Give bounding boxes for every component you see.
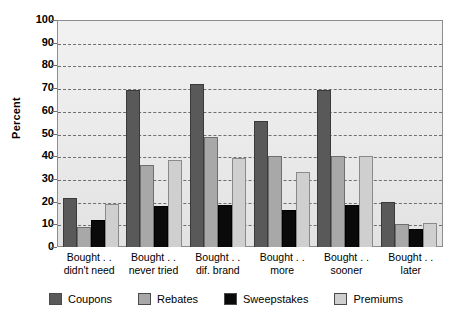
bar-group — [126, 20, 182, 247]
bar-premiums-4 — [296, 172, 310, 247]
bar-rebates-3 — [204, 137, 218, 247]
bar-sweepstakes-5 — [345, 205, 359, 247]
x-axis-label-6: Bought . .later — [379, 251, 443, 277]
y-axis-tick-10: 10 — [0, 217, 54, 229]
legend-label-rebates: Rebates — [157, 293, 198, 305]
bar-coupons-6 — [381, 202, 395, 247]
legend-swatch-coupons — [49, 293, 62, 305]
bar-chart: Percent 0102030405060708090100 Bought . … — [0, 0, 452, 320]
bar-sweepstakes-3 — [218, 205, 232, 247]
y-axis-tick-0: 0 — [0, 240, 54, 252]
y-axis-tick-60: 60 — [0, 104, 54, 116]
bar-premiums-1 — [105, 204, 119, 247]
bar-rebates-1 — [77, 227, 91, 247]
legend-item-sweepstakes[interactable]: Sweepstakes — [224, 293, 308, 305]
legend-label-sweepstakes: Sweepstakes — [243, 293, 308, 305]
y-axis-tick-50: 50 — [0, 127, 54, 139]
y-axis-tick-80: 80 — [0, 58, 54, 70]
legend-label-premiums: Premiums — [353, 293, 403, 305]
legend-item-rebates[interactable]: Rebates — [138, 293, 198, 305]
legend-item-coupons[interactable]: Coupons — [49, 293, 112, 305]
bar-sweepstakes-1 — [91, 220, 105, 247]
bar-coupons-2 — [126, 90, 140, 247]
bar-sweepstakes-2 — [154, 206, 168, 247]
bar-group — [63, 20, 119, 247]
bar-rebates-2 — [140, 165, 154, 247]
y-axis-tick-20: 20 — [0, 195, 54, 207]
x-axis-tick-labels: Bought . .didn't needBought . .never tri… — [57, 251, 443, 277]
bar-coupons-3 — [190, 84, 204, 247]
bar-premiums-2 — [168, 160, 182, 247]
legend-swatch-premiums — [334, 293, 347, 305]
x-axis-label-4: Bought . .more — [250, 251, 314, 277]
bar-premiums-5 — [359, 156, 373, 247]
bar-sweepstakes-4 — [282, 210, 296, 247]
bar-sweepstakes-6 — [409, 229, 423, 247]
y-axis-tickmark — [51, 247, 57, 248]
bar-rebates-5 — [331, 156, 345, 247]
bar-group — [254, 20, 310, 247]
legend: CouponsRebatesSweepstakesPremiums — [0, 293, 452, 305]
bar-coupons-5 — [317, 90, 331, 247]
legend-swatch-rebates — [138, 293, 151, 305]
bar-premiums-3 — [232, 158, 246, 247]
bar-coupons-4 — [254, 121, 268, 247]
bar-groups — [57, 20, 443, 247]
legend-swatch-sweepstakes — [224, 293, 237, 305]
y-axis-tick-40: 40 — [0, 149, 54, 161]
x-axis-label-2: Bought . .never tried — [121, 251, 185, 277]
bar-group — [317, 20, 373, 247]
x-axis-label-1: Bought . .didn't need — [57, 251, 121, 277]
legend-item-premiums[interactable]: Premiums — [334, 293, 403, 305]
x-axis-label-5: Bought . .sooner — [314, 251, 378, 277]
y-axis-tick-100: 100 — [0, 13, 54, 25]
y-axis-tick-30: 30 — [0, 172, 54, 184]
legend-label-coupons: Coupons — [68, 293, 112, 305]
bar-group — [190, 20, 246, 247]
y-axis-tick-70: 70 — [0, 81, 54, 93]
bar-premiums-6 — [423, 223, 437, 247]
bar-rebates-6 — [395, 224, 409, 247]
y-axis-tick-90: 90 — [0, 36, 54, 48]
x-axis-label-3: Bought . .dif. brand — [186, 251, 250, 277]
bar-rebates-4 — [268, 156, 282, 247]
bar-coupons-1 — [63, 198, 77, 247]
bar-group — [381, 20, 437, 247]
